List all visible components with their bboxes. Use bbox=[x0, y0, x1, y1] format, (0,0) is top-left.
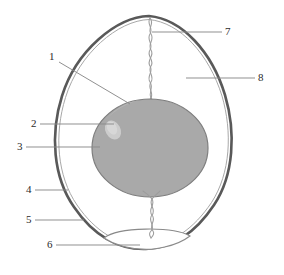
yolk-ellipse bbox=[92, 99, 208, 197]
label-1: 1 bbox=[49, 51, 55, 62]
label-5: 5 bbox=[26, 214, 32, 225]
egg-anatomy-diagram: 1 2 3 4 5 6 7 8 bbox=[0, 0, 284, 275]
label-7: 7 bbox=[225, 26, 231, 37]
label-8: 8 bbox=[258, 72, 264, 83]
air-cell-lens bbox=[104, 229, 190, 249]
egg-cross-section-figure bbox=[0, 0, 284, 275]
label-4: 4 bbox=[26, 184, 32, 195]
label-2: 2 bbox=[31, 118, 37, 129]
label-3: 3 bbox=[17, 141, 23, 152]
label-6: 6 bbox=[47, 239, 53, 250]
